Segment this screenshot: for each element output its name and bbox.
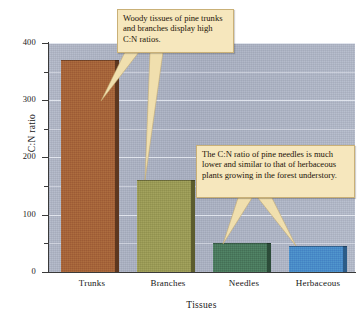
callout-cn-ratio-needles: The C:N ratio of pine needles is much lo… xyxy=(196,145,355,198)
bar-chart-figure: 400 300 200 100 0 C:N ratio Trunks Branc… xyxy=(0,0,361,324)
pointer-to-branches xyxy=(145,52,163,180)
callout-woody-tissues: Woody tissues of pine trunks and branche… xyxy=(117,9,234,53)
pointer-to-trunks xyxy=(101,52,139,101)
pointer-to-herbaceous xyxy=(258,198,296,246)
pointer-to-needles xyxy=(223,198,252,244)
